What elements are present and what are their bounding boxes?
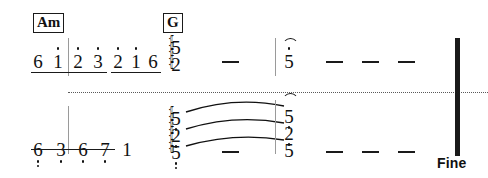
jianpu-note: 6 — [31, 52, 45, 71]
jianpu-note: 2 — [71, 52, 85, 71]
barline — [275, 38, 276, 76]
chord-symbol-g: G — [163, 13, 183, 33]
sustain-dash — [362, 61, 379, 63]
octave-dot-below — [104, 160, 107, 163]
duration-beam — [31, 72, 107, 73]
jianpu-note: 3 — [91, 52, 105, 71]
octave-dot-below — [175, 167, 178, 170]
jianpu-note: 1 — [120, 140, 134, 159]
jianpu-chord-note: 5 — [282, 141, 296, 160]
sustain-dash — [362, 151, 379, 153]
sustain-dash — [398, 151, 415, 153]
octave-dot-below — [175, 162, 178, 165]
system-divider — [68, 92, 488, 93]
sustain-dash — [222, 61, 239, 63]
barline — [275, 100, 276, 154]
jianpu-chord-note: 5 — [282, 52, 296, 71]
octave-dot-above — [57, 47, 60, 50]
octave-dot-below — [37, 160, 40, 163]
sustain-dash — [326, 61, 343, 63]
sustain-dash — [222, 151, 239, 153]
barline — [68, 38, 69, 76]
octave-dot-above — [288, 47, 291, 50]
jianpu-chord-note: 5 — [169, 143, 183, 162]
jianpu-note: 1 — [51, 52, 65, 71]
tie-arc — [186, 120, 284, 129]
jianpu-chord-note: 2 — [169, 55, 183, 74]
octave-dot-above — [117, 47, 120, 50]
fine-marking: Fine — [437, 156, 467, 171]
octave-dot-above — [97, 47, 100, 50]
sustain-dash — [326, 151, 343, 153]
octave-dot-below — [82, 160, 85, 163]
fermata-mark — [282, 93, 299, 102]
sustain-dash — [398, 61, 415, 63]
jianpu-score-sheet: AmG6123216⦃⦃⦃⦃⦃52563671⦃⦃⦃⦃⦃⦃⦃525525Fine — [0, 0, 488, 178]
jianpu-note: 1 — [129, 52, 143, 71]
jianpu-note: 2 — [111, 52, 125, 71]
duration-beam — [111, 72, 161, 73]
octave-dot-above — [77, 47, 80, 50]
tie-arc — [186, 137, 284, 146]
final-barline — [455, 38, 460, 156]
tie-arc — [186, 102, 284, 112]
octave-dot-above — [135, 47, 138, 50]
octave-dot-below — [37, 165, 40, 168]
fermata-mark — [282, 38, 299, 47]
duration-beam — [31, 149, 115, 150]
chord-symbol-am: Am — [33, 13, 64, 33]
octave-dot-below — [60, 160, 63, 163]
jianpu-note: 6 — [146, 52, 160, 71]
barline — [68, 106, 69, 154]
